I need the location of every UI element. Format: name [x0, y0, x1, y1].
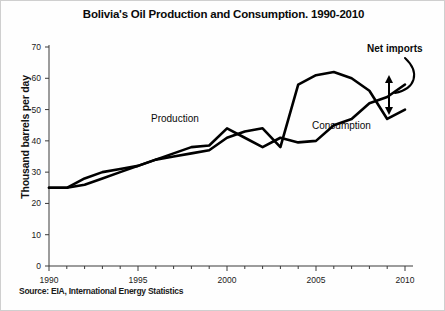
- x-axis-tick-label: 2000: [218, 275, 237, 285]
- y-axis: 010203040506070: [32, 42, 49, 271]
- y-axis-tick-label: 50: [32, 105, 42, 115]
- y-axis-tick-label: 70: [32, 42, 42, 52]
- x-axis-tick-label: 2005: [307, 275, 326, 285]
- y-axis-tick-label: 20: [32, 198, 42, 208]
- chart-container: Bolivia's Oil Production and Consumption…: [0, 0, 445, 311]
- net-imports-arrow-head-up: [385, 75, 393, 83]
- series-label-consumption: Consumption: [312, 120, 371, 131]
- x-axis-tick-label: 1995: [129, 275, 148, 285]
- source-note: Source: EIA, International Energy Statis…: [19, 286, 183, 296]
- net-imports-leader-line: [395, 58, 414, 93]
- series-line-production: [49, 85, 405, 188]
- x-axis-tick-label: 2010: [396, 275, 415, 285]
- y-axis-tick-label: 40: [32, 136, 42, 146]
- series-label-production: Production: [151, 113, 199, 124]
- y-axis-tick-label: 30: [32, 167, 42, 177]
- plot-area: 010203040506070 19901995200020052010 Pro…: [1, 1, 445, 311]
- annotation-group: Net imports: [367, 43, 423, 115]
- net-imports-label: Net imports: [367, 43, 423, 54]
- net-imports-arrow-head-down: [385, 107, 393, 115]
- y-axis-tick-label: 60: [32, 73, 42, 83]
- data-series-group: ProductionConsumption: [49, 72, 405, 188]
- x-axis: 19901995200020052010: [40, 266, 415, 285]
- y-axis-tick-label: 0: [36, 261, 41, 271]
- y-axis-tick-label: 10: [32, 230, 42, 240]
- x-axis-tick-label: 1990: [40, 275, 59, 285]
